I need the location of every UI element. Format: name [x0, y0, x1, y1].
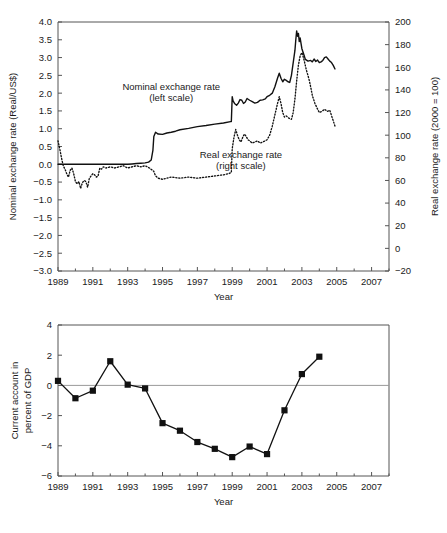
y-tick-label: 4	[47, 319, 52, 330]
x-tick-label: 2003	[291, 481, 312, 492]
y-axis-title: Current account inpercent of GDP	[9, 362, 33, 440]
y-tick-label-left: −2.0	[33, 230, 52, 241]
x-tick-label: 1999	[222, 276, 243, 287]
data-point-marker	[229, 454, 235, 460]
y-tick-label-right: 0	[395, 243, 400, 254]
x-tick-label: 2005	[326, 481, 347, 492]
y-axis-title-right: Real exchange rate (2000 = 100)	[429, 77, 440, 216]
x-tick-label: 2005	[326, 276, 347, 287]
x-tick-label: 1999	[222, 481, 243, 492]
x-tick-label: 2007	[361, 276, 382, 287]
real-series-label-line1: Real exchange rate	[200, 149, 282, 160]
y-tick-label-left: 2.5	[39, 70, 52, 81]
y-tick-label-left: 3.5	[39, 34, 52, 45]
y-tick-label-right: 180	[395, 39, 411, 50]
x-tick-label: 1995	[152, 481, 173, 492]
y-tick-label-right: 60	[395, 175, 406, 186]
y-tick-label-left: 0.0	[39, 159, 52, 170]
y-axis-title-left: Nominal exchange rate (Real/US$)	[7, 73, 18, 220]
x-tick-label: 1989	[47, 276, 68, 287]
y-tick-label-right: 120	[395, 107, 411, 118]
x-tick-label: 1991	[82, 276, 103, 287]
real-series-label-line2: (right scale)	[216, 160, 266, 171]
y-tick-label: 2	[47, 350, 52, 361]
data-point-marker	[281, 407, 287, 413]
nominal-exchange-rate-series	[58, 31, 335, 164]
y-tick-label-left: 4.0	[39, 16, 52, 27]
x-tick-label: 1991	[82, 481, 103, 492]
x-tick-label: 2001	[256, 276, 277, 287]
y-tick-label-right: 20	[395, 220, 406, 231]
x-tick-label: 2007	[361, 481, 382, 492]
y-tick-label-left: 2.0	[39, 88, 52, 99]
data-point-marker	[299, 371, 305, 377]
x-axis-title: Year	[214, 291, 233, 300]
y-tick-label-left: 1.0	[39, 123, 52, 134]
y-tick-label-right: 40	[395, 197, 406, 208]
y-tick-label-left: −1.0	[33, 194, 52, 205]
data-point-marker	[247, 443, 253, 449]
y-tick-label-right: 80	[395, 152, 406, 163]
y-tick-label: −6	[41, 470, 52, 481]
data-point-marker	[72, 395, 78, 401]
y-tick-label-right: 140	[395, 84, 411, 95]
x-tick-label: 1997	[187, 481, 208, 492]
real-exchange-rate-series	[58, 53, 335, 189]
x-axis-title: Year	[214, 496, 233, 507]
y-tick-label-left: −3.0	[33, 265, 52, 276]
current-account-series	[58, 357, 319, 457]
svg-text:Current account in: Current account in	[9, 362, 20, 440]
data-point-marker	[316, 354, 322, 360]
y-tick-label-left: 3.0	[39, 52, 52, 63]
svg-text:percent of GDP: percent of GDP	[22, 368, 33, 433]
x-tick-label: 1993	[117, 276, 138, 287]
y-tick-label-right: 100	[395, 130, 411, 141]
data-point-marker	[159, 420, 165, 426]
x-tick-label: 2001	[256, 481, 277, 492]
data-point-marker	[194, 439, 200, 445]
x-tick-label: 1993	[117, 481, 138, 492]
y-tick-label-left: −2.5	[33, 248, 52, 259]
nominal-series-label-line1: Nominal exchange rate	[122, 81, 220, 92]
y-tick-label-left: −1.5	[33, 212, 52, 223]
y-tick-label-left: 1.5	[39, 105, 52, 116]
y-tick-label: 0	[47, 380, 52, 391]
data-point-marker	[107, 358, 113, 364]
y-tick-label-left: −0.5	[33, 176, 52, 187]
data-point-marker	[212, 446, 218, 452]
current-account-chart: −6−4−20241989199119931995199719992001200…	[0, 300, 447, 533]
y-tick-label-left: 0.5	[39, 141, 52, 152]
nominal-series-label-line2: (left scale)	[149, 92, 193, 103]
exchange-rate-chart: −3.0−2.5−2.0−1.5−1.0−0.50.00.51.01.52.02…	[0, 0, 447, 300]
x-tick-label: 2003	[291, 276, 312, 287]
y-tick-label-right: 160	[395, 62, 411, 73]
data-point-marker	[125, 382, 131, 388]
x-tick-label: 1997	[187, 276, 208, 287]
data-point-marker	[90, 388, 96, 394]
y-tick-label-right: 200	[395, 16, 411, 27]
y-tick-label: −2	[41, 410, 52, 421]
data-point-marker	[142, 385, 148, 391]
data-point-marker	[177, 428, 183, 434]
y-tick-label-right: −20	[395, 265, 411, 276]
data-point-marker	[264, 451, 270, 457]
x-tick-label: 1995	[152, 276, 173, 287]
x-tick-label: 1989	[47, 481, 68, 492]
figure-container: −3.0−2.5−2.0−1.5−1.0−0.50.00.51.01.52.02…	[0, 0, 447, 533]
data-point-marker	[55, 378, 61, 384]
y-tick-label: −4	[41, 440, 52, 451]
